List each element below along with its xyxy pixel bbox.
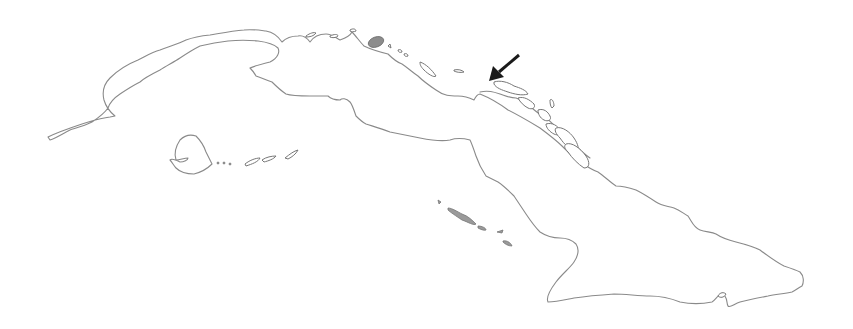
isla-de-la-juventud	[170, 135, 212, 174]
annotation-arrow	[489, 55, 519, 81]
canarreos-archipelago	[217, 150, 298, 166]
jardines-de-la-reina	[438, 200, 512, 246]
shaded-bay-feature	[367, 35, 385, 50]
sabana-camaguey-cays	[494, 81, 589, 168]
cuba-map	[0, 0, 853, 329]
